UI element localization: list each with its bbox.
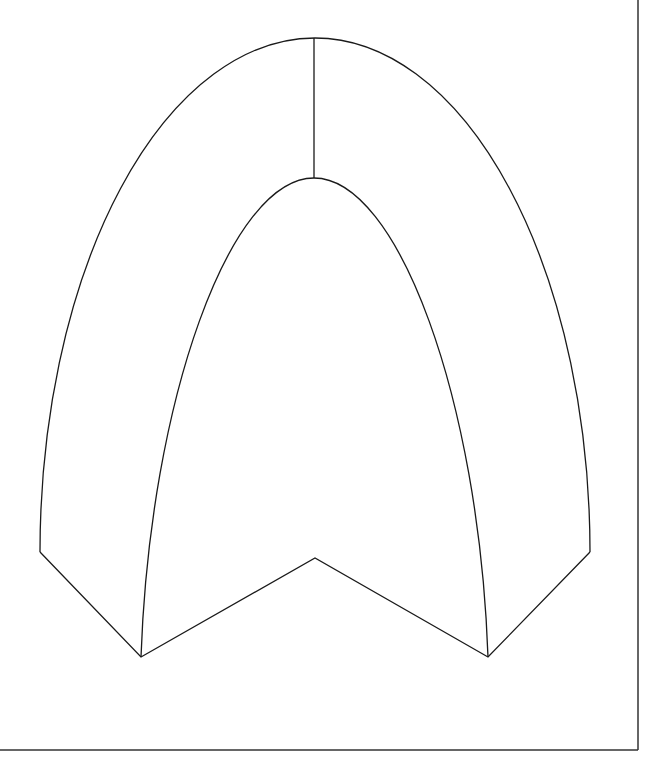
inner-arch-curve	[141, 178, 488, 657]
diagram-canvas	[0, 0, 659, 774]
base-zigzag-edge	[40, 552, 590, 657]
outer-dome-arc	[40, 38, 590, 552]
